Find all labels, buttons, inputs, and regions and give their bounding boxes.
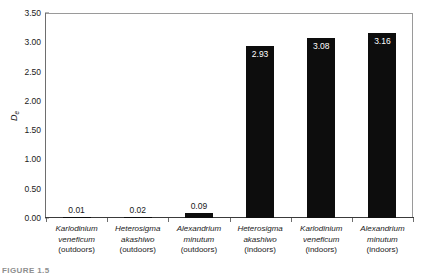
bar[interactable]: [63, 217, 91, 219]
y-axis-tick-label: 3.50: [10, 8, 45, 18]
category-species: minutum: [352, 235, 413, 246]
bar[interactable]: [246, 46, 274, 218]
y-axis-tick-label: 2.00: [10, 96, 45, 106]
category-species: minutum: [168, 235, 229, 246]
category-genus: Alexandrium: [352, 224, 413, 235]
x-axis-category-label: Karlodiniumveneficum(outdoors): [46, 224, 107, 256]
y-axis-tick-label: 0.50: [10, 184, 45, 194]
x-axis-category-label: Karlodiniumveneficum(indoors): [291, 224, 352, 256]
bar[interactable]: [307, 38, 335, 218]
bar[interactable]: [124, 217, 152, 219]
bar-value-label: 0.02: [129, 205, 146, 215]
category-condition: (indoors): [230, 245, 291, 256]
x-axis-tick-mark: [107, 218, 108, 222]
category-species: akashiwo: [107, 235, 168, 246]
bar[interactable]: [185, 213, 213, 218]
bar-group[interactable]: 3.08: [291, 14, 352, 218]
bar-value-label: 3.08: [313, 41, 330, 51]
category-species: veneficum: [46, 235, 107, 246]
category-species: akashiwo: [230, 235, 291, 246]
category-condition: (outdoors): [46, 245, 107, 256]
bars-plot-area: 0.010.020.092.933.083.16: [46, 14, 413, 218]
figure-container: De 0.000.501.001.502.002.503.003.50 0.01…: [0, 0, 425, 275]
y-axis-tick-label: 1.00: [10, 154, 45, 164]
x-axis-category-label: Alexandriumminutum(indoors): [352, 224, 413, 256]
x-axis-category-label: Heterosigmaakashiwo(outdoors): [107, 224, 168, 256]
x-axis-category-label: Heterosigmaakashiwo(indoors): [230, 224, 291, 256]
x-axis-tick-mark: [168, 218, 169, 222]
x-axis-tick-mark: [352, 218, 353, 222]
category-condition: (indoors): [291, 245, 352, 256]
x-axis-category-labels: Karlodiniumveneficum(outdoors)Heterosigm…: [46, 224, 413, 264]
category-condition: (outdoors): [107, 245, 168, 256]
bar-group[interactable]: 0.02: [107, 14, 168, 218]
category-species: veneficum: [291, 235, 352, 246]
bar-value-label: 2.93: [252, 49, 269, 59]
x-axis-tick-mark: [230, 218, 231, 222]
category-condition: (indoors): [352, 245, 413, 256]
x-axis-tick-mark: [291, 218, 292, 222]
bar-value-label: 3.16: [374, 36, 391, 46]
category-condition: (outdoors): [168, 245, 229, 256]
bar-value-label: 0.09: [191, 201, 208, 211]
y-axis-tick-label: 1.50: [10, 125, 45, 135]
y-axis-tick-label: 3.00: [10, 37, 45, 47]
y-axis-tick-labels: 0.000.501.001.502.002.503.003.50: [10, 0, 45, 275]
category-genus: Heterosigma: [107, 224, 168, 235]
x-axis-tick-mark: [46, 218, 47, 222]
x-axis-category-label: Alexandriumminutum(outdoors): [168, 224, 229, 256]
category-genus: Heterosigma: [230, 224, 291, 235]
bar-group[interactable]: 2.93: [230, 14, 291, 218]
bar-group[interactable]: 3.16: [352, 14, 413, 218]
category-genus: Karlodinium: [291, 224, 352, 235]
figure-caption: FIGURE 1.5: [2, 266, 50, 275]
bar[interactable]: [368, 33, 396, 218]
y-axis-tick-label: 2.50: [10, 67, 45, 77]
category-genus: Alexandrium: [168, 224, 229, 235]
bar-group[interactable]: 0.01: [46, 14, 107, 218]
bar-group[interactable]: 0.09: [168, 14, 229, 218]
bar-value-label: 0.01: [68, 205, 85, 215]
category-genus: Karlodinium: [46, 224, 107, 235]
x-axis-tick-mark: [413, 218, 414, 222]
y-axis-tick-label: 0.00: [10, 213, 45, 223]
